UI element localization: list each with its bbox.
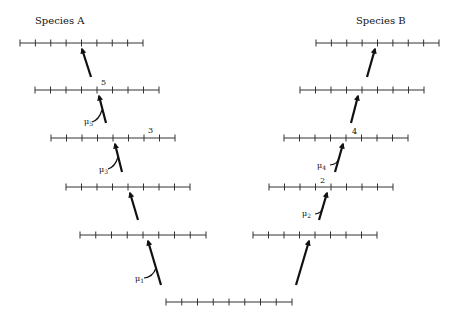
mutation-label-mu4: μ4 <box>317 161 326 171</box>
chromosome-bar-A4 <box>66 184 190 191</box>
arrow-icon <box>351 96 358 123</box>
species-a-title: Species A <box>35 15 85 26</box>
arrow-icon <box>296 241 309 285</box>
mutation-label-mu2: μ2 <box>302 209 311 219</box>
chromosome-bar-A2 <box>35 87 159 94</box>
chromosome-bar-A5 <box>80 232 206 239</box>
arrow-icon <box>82 49 91 77</box>
lineage-a-arrows <box>82 49 161 285</box>
chromosome-bar-A1 <box>20 40 143 47</box>
arrow-icon <box>148 241 161 285</box>
arrow-icon <box>115 144 122 172</box>
arrow-icon <box>99 96 106 123</box>
chromosome-bar-B2 <box>300 87 424 94</box>
site-label-3: 3 <box>148 126 153 135</box>
chromosome-bar-B5 <box>253 232 377 239</box>
arrow-icon <box>319 193 327 220</box>
chromosome-bar-A3 <box>51 135 175 142</box>
site-label-5: 5 <box>101 78 106 87</box>
site-label-4: 4 <box>352 127 357 136</box>
mutation-label-mu5: μ5 <box>84 117 93 127</box>
chromosome-bars <box>20 40 439 306</box>
mutation-label-mu1: μ1 <box>135 274 144 284</box>
mu3-hook-icon <box>108 157 118 169</box>
mu5-hook-icon <box>92 110 102 122</box>
arrow-icon <box>367 49 375 77</box>
mutation-label-mu3: μ3 <box>99 165 108 175</box>
mu1-hook-icon <box>144 268 156 278</box>
site-label-2: 2 <box>320 176 325 185</box>
arrow-icon <box>130 193 138 220</box>
chromosome-bar-base <box>166 299 292 306</box>
diagram-canvas: Species A Species B 5 3 4 2 μ5 μ3 μ4 μ2 … <box>0 0 453 315</box>
chromosome-bar-B4 <box>269 184 393 191</box>
species-b-title: Species B <box>356 15 406 26</box>
lineage-b-arrows <box>296 49 375 285</box>
chromosome-bar-B3 <box>284 135 408 142</box>
chromosome-bar-B1 <box>316 40 439 47</box>
